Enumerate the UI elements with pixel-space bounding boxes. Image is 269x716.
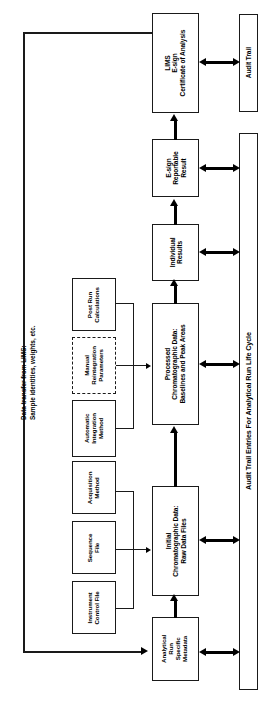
node-audit-trail-label: Audit Trail <box>245 47 252 78</box>
connector-metadata-to-audit-entries <box>203 651 235 654</box>
bus-files-to-initial <box>116 549 147 550</box>
node-esign-line3: Result <box>179 158 186 178</box>
node-processed-chromatographic-data[interactable]: Processed Chromatographic Data: Baseline… <box>152 303 199 425</box>
connector-initial-to-audit-entries <box>203 539 235 542</box>
node-lims-line2: E-sign <box>172 53 179 73</box>
node-instrument-control-file-label: Instrument Control File <box>87 591 101 624</box>
node-automatic-line3: Method <box>96 418 103 439</box>
bus-post-run-stub <box>116 303 134 304</box>
node-automatic-integration-method[interactable]: Automatic Integration Method <box>72 400 116 457</box>
node-lims-line3: Certificate of Analysis <box>179 30 186 97</box>
node-esign-reportable-label: E-sign Reportable Result <box>164 151 186 184</box>
node-instrument-line2: Control File <box>93 591 100 624</box>
bus-acquisition-stub <box>116 491 134 492</box>
connector-lims-audit-arrow-right <box>233 58 240 66</box>
flowchart-canvas: Data transfer from LIMS: Sample identiti… <box>0 0 269 716</box>
connector-processed-audit-arrow-right <box>233 360 240 368</box>
connector-metadata-audit-arrow-right <box>233 648 240 656</box>
connector-processed-to-audit-entries <box>203 363 235 366</box>
node-initial-line1: Initial <box>164 533 171 550</box>
node-sequence-line1: Sequence <box>86 533 93 561</box>
connector-esign-audit-arrow-left <box>199 164 206 172</box>
lims-feedback-line-top <box>23 32 153 34</box>
node-esign-reportable-result[interactable]: E-sign Reportable Result <box>152 139 199 197</box>
node-audit-trail-entries-label: Audit Trail Entries For Analytical Run L… <box>244 333 252 491</box>
node-acquisition-method[interactable]: Acquisition Method <box>72 461 116 514</box>
node-individual-results[interactable]: Individual Results <box>152 224 199 281</box>
connector-processed-to-individual-arrowhead <box>170 279 178 286</box>
connector-esign-to-audit-entries <box>203 167 235 170</box>
node-manual-line2: Reintegration <box>90 346 97 385</box>
connector-individual-to-audit-entries <box>203 251 235 254</box>
node-lims-line1: LIMS <box>164 55 171 70</box>
node-lims-certificate-of-analysis[interactable]: LIMS E-sign Certificate of Analysis <box>152 13 199 113</box>
node-post-run-calculations[interactable]: Post Run Calculations <box>72 278 116 331</box>
connector-processed-to-individual <box>174 285 177 304</box>
node-initial-line2: Chromatographic Data: <box>172 505 179 576</box>
connector-lims-audit-arrow-left <box>199 58 206 66</box>
connector-processed-audit-arrow-left <box>199 360 206 368</box>
node-automatic-line2: Integration <box>90 413 97 444</box>
bus-automatic-integration-stub <box>116 428 134 429</box>
node-acquisition-method-label: Acquisition Method <box>87 471 101 504</box>
connector-metadata-to-initial-arrowhead <box>170 594 178 601</box>
connector-individual-to-esign-arrowhead <box>170 199 178 206</box>
node-initial-chromatographic-data[interactable]: Initial Chromatographic Data: Raw Data F… <box>152 486 199 596</box>
connector-initial-audit-arrow-left <box>199 536 206 544</box>
connector-initial-to-processed <box>174 432 177 487</box>
node-analytical-run-specific-metadata[interactable]: Analytical Run Specific Metadata <box>152 617 199 681</box>
node-initial-line3: Raw Data Files <box>179 518 186 563</box>
node-audit-trail-entries[interactable]: Audit Trail Entries For Analytical Run L… <box>239 133 258 690</box>
node-initial-data-label: Initial Chromatographic Data: Raw Data F… <box>164 505 186 576</box>
node-manual-reintegration-label: Manual Reintegration Parameters <box>84 346 105 385</box>
node-instrument-control-file[interactable]: Instrument Control File <box>72 581 116 634</box>
node-analytical-metadata-label: Analytical Run Specific Metadata <box>162 635 190 663</box>
node-lims-label: LIMS E-sign Certificate of Analysis <box>164 30 186 97</box>
connector-metadata-to-initial <box>174 600 177 618</box>
lims-transfer-caption-line2: Sample identities, weights, etc. <box>29 326 37 420</box>
lims-transfer-caption-line1: Data transfer from LIMS: <box>20 345 28 420</box>
node-acquisition-line2: Method <box>93 477 100 498</box>
node-sequence-line2: File <box>93 542 100 552</box>
node-sequence-file-label: Sequence File <box>87 533 101 561</box>
connector-initial-to-processed-arrowhead <box>170 426 178 433</box>
node-post-run-line2: Calculations <box>93 287 100 323</box>
node-individual-line2: Results <box>176 241 183 264</box>
node-automatic-line1: Automatic <box>83 414 90 443</box>
node-esign-line1: E-sign <box>164 158 171 178</box>
connector-esign-audit-arrow-right <box>233 164 240 172</box>
node-processed-line2: Chromatographic Data: <box>172 328 179 399</box>
node-metadata-line4: Metadata <box>181 636 188 662</box>
node-audit-trail[interactable]: Audit Trail <box>239 14 258 112</box>
node-processed-data-label: Processed Chromatographic Data: Baseline… <box>164 324 186 403</box>
node-individual-results-label: Individual Results <box>168 238 183 268</box>
connector-lims-to-audit-trail <box>203 61 235 64</box>
connector-esign-to-lims-arrowhead <box>170 114 178 121</box>
bus-methods-to-processed-arrowhead <box>146 363 151 369</box>
node-manual-line1: Manual <box>83 355 90 376</box>
node-post-run-label: Post Run Calculations <box>87 287 101 323</box>
connector-individual-to-esign <box>174 205 177 225</box>
node-processed-line3: Baselines and Peak Areas <box>179 324 186 403</box>
lims-feedback-line-vertical <box>23 32 25 652</box>
node-automatic-integration-label: Automatic Integration Method <box>84 413 105 444</box>
node-individual-line1: Individual <box>168 238 175 268</box>
bus-instrument-stub <box>116 608 134 609</box>
node-esign-line2: Reportable <box>172 151 179 184</box>
node-acquisition-line1: Acquisition <box>86 471 93 504</box>
node-manual-line3: Parameters <box>96 349 103 382</box>
connector-esign-to-lims <box>174 120 177 140</box>
bus-methods-to-processed <box>116 365 147 366</box>
connector-individual-audit-arrow-left <box>199 248 206 256</box>
bus-files-to-initial-arrowhead <box>146 547 151 553</box>
node-manual-reintegration-parameters[interactable]: Manual Reintegration Parameters <box>72 337 116 394</box>
lims-feedback-line-bottom <box>23 651 142 653</box>
node-processed-line1: Processed <box>164 348 171 380</box>
lims-feedback-arrowhead <box>141 647 148 655</box>
connector-initial-audit-arrow-right <box>233 536 240 544</box>
node-sequence-file[interactable]: Sequence File <box>72 521 116 574</box>
connector-metadata-audit-arrow-left <box>199 648 206 656</box>
connector-individual-audit-arrow-right <box>233 248 240 256</box>
